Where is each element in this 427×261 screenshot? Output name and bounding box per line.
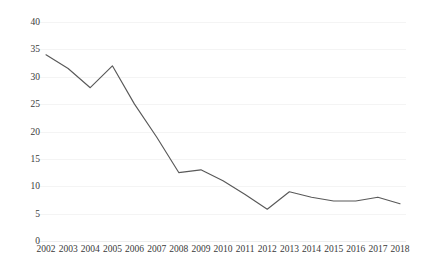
line-chart: 0510152025303540 20022003200420052006200… bbox=[0, 0, 427, 261]
series-line bbox=[46, 55, 400, 209]
data-series-layer bbox=[0, 0, 427, 261]
